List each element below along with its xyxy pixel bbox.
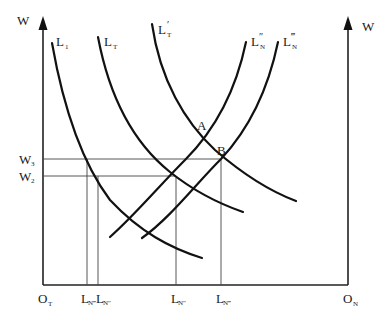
xtick-4: L N‴ [216,291,231,307]
curve-ln-dprime [110,42,246,237]
svg-text:T: T [113,43,118,51]
xtick-1: L N‴ [81,291,96,307]
svg-text:‴: ‴ [291,31,296,42]
point-a-label: A [197,118,207,133]
label-w3: W 3 [19,152,35,168]
svg-text:T: T [48,300,53,308]
left-axis [39,16,48,285]
xtick-2: L N″ [96,291,111,307]
origin-right: O N [343,291,358,308]
right-axis-label: W [362,19,375,34]
svg-text:N: N [353,300,358,308]
svg-text:N‴: N‴ [88,299,96,307]
svg-text:N: N [292,43,297,51]
svg-text:L: L [104,34,112,49]
labor-market-diagram: W W L 1 L T L T ′ L N ″ L N ‴ A B W 3 W … [0,0,392,321]
svg-text:L: L [251,34,259,49]
right-axis-arrow-icon [344,16,353,30]
svg-text:N‴: N‴ [223,299,231,307]
svg-text:L: L [283,34,291,49]
svg-text:″: ″ [259,31,263,42]
svg-text:N: N [260,43,265,51]
svg-text:2: 2 [31,177,35,185]
xtick-3: L N″ [171,291,186,307]
curve-l1 [52,43,202,258]
svg-text:O: O [343,291,352,306]
left-axis-arrow-icon [39,16,48,30]
label-ln-tprime: L N ‴ [283,31,297,51]
label-w2: W 2 [19,169,35,185]
svg-text:N″: N″ [178,299,186,307]
svg-text:1: 1 [65,43,69,51]
label-lt-prime: L T ′ [158,19,172,39]
svg-text:O: O [38,291,47,306]
svg-text:L: L [56,34,64,49]
svg-text:L: L [158,22,166,37]
point-b-label: B [217,143,226,158]
svg-text:′: ′ [167,19,169,30]
origin-left: O T [38,291,53,308]
right-axis [344,16,353,285]
left-axis-label: W [17,13,30,28]
svg-text:3: 3 [31,160,35,168]
svg-text:N″: N″ [103,299,111,307]
label-lt: L T [104,34,118,51]
svg-text:T: T [167,31,172,39]
label-ln-dprime: L N ″ [251,31,265,51]
label-l1: L 1 [56,34,69,51]
curve-ln-tprime [142,42,278,238]
